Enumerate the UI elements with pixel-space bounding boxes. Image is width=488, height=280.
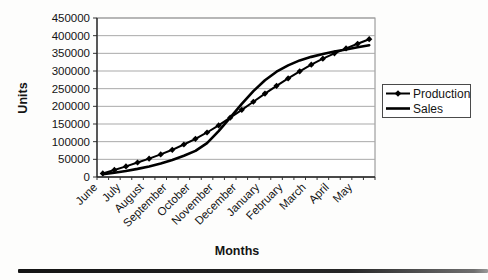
x-tick-label: April [306,181,331,206]
x-tick-label: March [277,181,308,212]
y-tick-label: 150000 [52,118,90,130]
y-tick-label: 450000 [52,12,90,24]
legend: Production Sales [383,85,471,118]
y-tick-label: 400000 [52,30,90,42]
plot-border [97,18,375,177]
y-axis-title: Units [16,82,30,113]
x-tick-label: June [73,181,99,207]
y-tick-label: 0 [84,171,90,183]
x-axis: JuneJulyAugustSeptemberOctoberNovemberDe… [73,177,375,229]
y-tick-label: 200000 [52,100,90,112]
y-tick-label: 100000 [52,136,90,148]
scanned-chart-page: 0500001000001500002000002500003000003500… [0,0,488,280]
y-axis: 0500001000001500002000002500003000003500… [52,12,97,183]
y-tick-label: 350000 [52,47,90,59]
chart-svg: 0500001000001500002000002500003000003500… [0,0,488,266]
page-bottom-rule [18,269,488,273]
y-tick-label: 300000 [52,65,90,77]
y-tick-label: 250000 [52,83,90,95]
x-axis-title: Months [215,244,259,258]
y-tick-label: 50000 [58,153,90,165]
plot-area: 0500001000001500002000002500003000003500… [52,12,375,229]
x-tick-label: May [330,181,354,205]
legend-label-sales: Sales [413,102,443,116]
legend-label-production: Production [413,87,470,101]
